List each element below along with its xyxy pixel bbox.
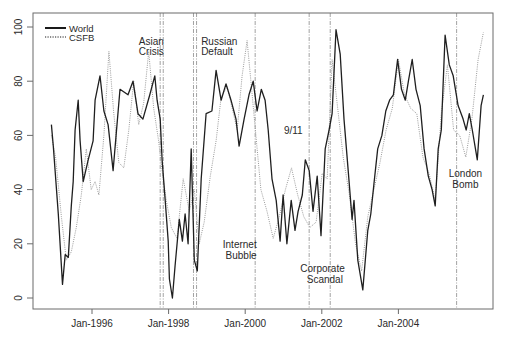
line-chart: 020406080100 Jan-1996Jan-1998Jan-2000Jan…: [0, 0, 507, 343]
event-annotation: Corporate: [300, 263, 345, 274]
x-tick-label: Jan-2000: [224, 318, 266, 329]
x-tick-label: Jan-1998: [148, 318, 190, 329]
y-tick-label: 100: [13, 18, 24, 35]
y-tick-label: 0: [13, 295, 24, 301]
x-tick-label: Jan-1996: [71, 318, 113, 329]
chart-container: 020406080100 Jan-1996Jan-1998Jan-2000Jan…: [0, 0, 507, 343]
legend-csfb-label: CSFB: [69, 32, 94, 43]
event-annotation: Bubble: [226, 250, 258, 261]
y-tick-label: 20: [13, 238, 24, 250]
series-world: [51, 30, 483, 298]
y-tick-label: 60: [13, 129, 24, 141]
x-tick-label: Jan-2004: [378, 318, 420, 329]
y-tick-label: 40: [13, 184, 24, 196]
event-annotation: Scandal: [307, 274, 343, 285]
legend: World CSFB: [45, 23, 94, 43]
event-annotation: Internet: [223, 239, 257, 250]
y-tick-label: 80: [13, 75, 24, 87]
y-axis: 020406080100: [13, 18, 33, 301]
event-annotation: Crisis: [139, 46, 164, 57]
x-tick-label: Jan-2002: [301, 318, 343, 329]
event-annotation: Default: [201, 46, 233, 57]
event-annotation: London: [449, 168, 482, 179]
csfb-line: [51, 32, 483, 271]
event-annotation: Bomb: [452, 179, 479, 190]
world-line: [51, 30, 483, 298]
event-annotation: 9/11: [284, 125, 303, 136]
event-annotation: Russian: [201, 36, 237, 47]
event-annotation: Asian: [139, 36, 164, 47]
x-axis: Jan-1996Jan-1998Jan-2000Jan-2002Jan-2004: [71, 309, 420, 329]
series-csfb: [51, 32, 483, 271]
